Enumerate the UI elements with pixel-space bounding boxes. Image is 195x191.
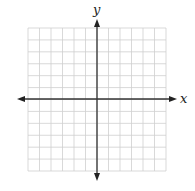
y-axis-label: y	[92, 2, 101, 17]
y-axis	[94, 19, 100, 181]
x-axis-right-arrow-icon	[169, 96, 177, 102]
x-axis-left-arrow-icon	[17, 96, 25, 102]
x-axis-label: x	[180, 91, 188, 106]
y-axis-down-arrow-icon	[94, 173, 100, 181]
y-axis-up-arrow-icon	[94, 19, 100, 27]
coordinate-plane: y x	[0, 0, 195, 191]
